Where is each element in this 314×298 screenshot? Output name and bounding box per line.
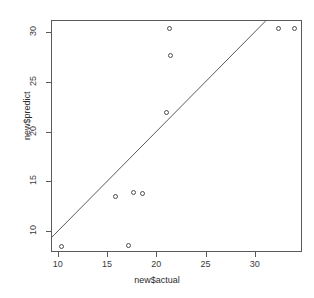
y-axis-tick-label-text: 30	[28, 26, 38, 36]
y-axis-tick-label-text: 25	[28, 76, 38, 86]
x-axis-tick	[255, 252, 256, 257]
x-axis-tick	[156, 252, 157, 257]
y-axis-tick	[46, 231, 51, 232]
data-point	[126, 243, 131, 248]
x-axis-tick	[206, 252, 207, 257]
x-axis-tick-label: 25	[201, 259, 211, 269]
x-axis-tick	[107, 252, 108, 257]
x-axis-tick-label: 20	[151, 259, 161, 269]
y-axis-tick-label-text: 15	[28, 175, 38, 185]
data-point	[59, 244, 64, 249]
data-point	[167, 26, 172, 31]
y-axis-tick	[46, 32, 51, 33]
data-point	[113, 194, 118, 199]
identity-reference-line	[51, 20, 302, 252]
x-axis-label: new$actual	[0, 275, 314, 285]
x-axis-tick-label: 15	[102, 259, 112, 269]
x-axis-tick	[58, 252, 59, 257]
plot-area	[51, 20, 302, 252]
y-axis-label-text: new$predict	[22, 91, 32, 140]
y-axis-tick-label: 10	[28, 225, 38, 235]
data-point	[276, 26, 281, 31]
data-point	[140, 191, 145, 196]
x-axis-tick-label: 10	[53, 259, 63, 269]
y-axis-tick-label: 30	[28, 26, 38, 36]
data-point	[168, 53, 173, 58]
y-axis-tick	[46, 82, 51, 83]
data-point	[164, 110, 169, 115]
y-axis-tick	[46, 132, 51, 133]
data-point	[131, 190, 136, 195]
y-axis-tick-label: 15	[28, 175, 38, 185]
y-axis-tick-label: 25	[28, 76, 38, 86]
data-point	[292, 26, 297, 31]
scatter-plot: 10152025301015202530 new$actual new$pred…	[0, 0, 314, 298]
y-axis-tick-label-text: 10	[28, 225, 38, 235]
y-axis-tick	[46, 181, 51, 182]
reference-line-segment	[51, 20, 267, 238]
x-axis-tick-label: 30	[250, 259, 260, 269]
